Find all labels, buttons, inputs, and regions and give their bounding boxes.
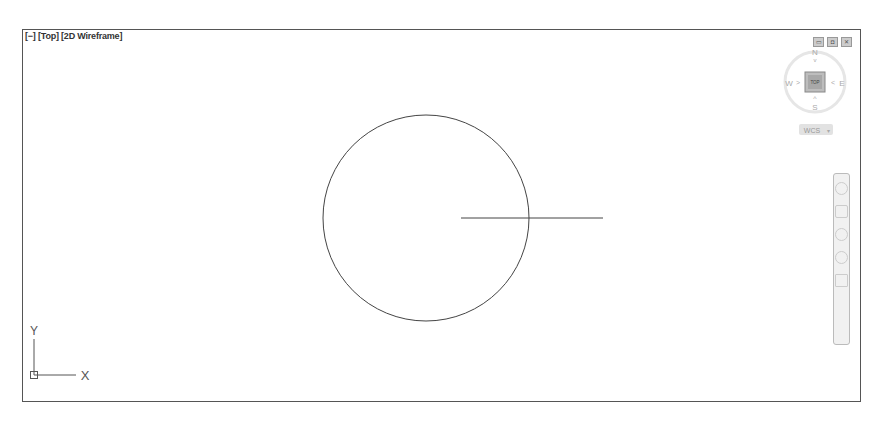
drawing-canvas[interactable]: [23, 30, 862, 403]
compass-north[interactable]: N: [812, 48, 818, 57]
chevron-down-icon: ▾: [827, 128, 830, 134]
viewcube-face-label: TOP: [810, 80, 819, 85]
ucs-x-label: X: [81, 368, 90, 383]
compass-south[interactable]: S: [812, 103, 817, 112]
arrow-up-icon[interactable]: ^: [813, 95, 817, 102]
ucs-y-label: Y: [30, 325, 38, 338]
arrow-left-icon[interactable]: <: [831, 79, 835, 86]
steering-wheel-icon[interactable]: [835, 182, 848, 195]
wcs-label: WCS: [804, 127, 821, 134]
drawing-viewport[interactable]: [−] [Top] [2D Wireframe] ▭ ◘ ✕ N v TOP W…: [22, 29, 861, 402]
zoom-icon[interactable]: [835, 228, 848, 241]
pan-icon[interactable]: [835, 205, 848, 218]
arrow-right-icon[interactable]: >: [796, 79, 800, 86]
compass-east[interactable]: E: [839, 79, 844, 88]
compass-west[interactable]: W: [785, 79, 793, 88]
orbit-icon[interactable]: [835, 251, 848, 264]
arrow-down-icon[interactable]: v: [814, 57, 817, 63]
viewcube[interactable]: N v TOP W > < E ^ S WCS ▾: [775, 44, 855, 139]
showmotion-icon[interactable]: [835, 274, 848, 287]
ucs-icon: Y X: [28, 325, 98, 385]
navigation-bar[interactable]: [833, 173, 850, 345]
